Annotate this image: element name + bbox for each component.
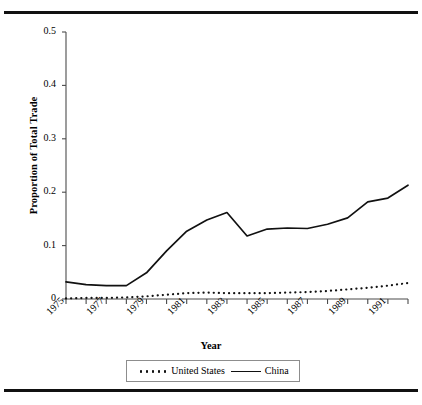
plot-area bbox=[0, 0, 422, 405]
legend-label-united-states: United States bbox=[171, 366, 225, 376]
chart-legend: United States China bbox=[126, 360, 300, 382]
solid-line-swatch-icon bbox=[231, 371, 261, 372]
y-tick-label: 0.3 bbox=[24, 132, 56, 143]
data-series bbox=[66, 185, 408, 298]
x-tick-marks bbox=[66, 299, 408, 304]
series-line-china bbox=[66, 185, 408, 285]
y-tick-label: 0.1 bbox=[24, 239, 56, 250]
dotted-line-swatch-icon bbox=[137, 370, 167, 373]
y-tick-marks bbox=[62, 32, 66, 299]
y-tick-label: 0.5 bbox=[24, 25, 56, 36]
chart-figure: Proportion of Total Trade Year 0.50.40.3… bbox=[0, 0, 422, 405]
y-tick-label: 0.4 bbox=[24, 78, 56, 89]
y-tick-label: 0.2 bbox=[24, 185, 56, 196]
legend-entry-china: China bbox=[231, 366, 289, 376]
legend-label-china: China bbox=[265, 366, 289, 376]
axes bbox=[66, 32, 408, 299]
legend-entry-united-states: United States bbox=[137, 366, 225, 376]
